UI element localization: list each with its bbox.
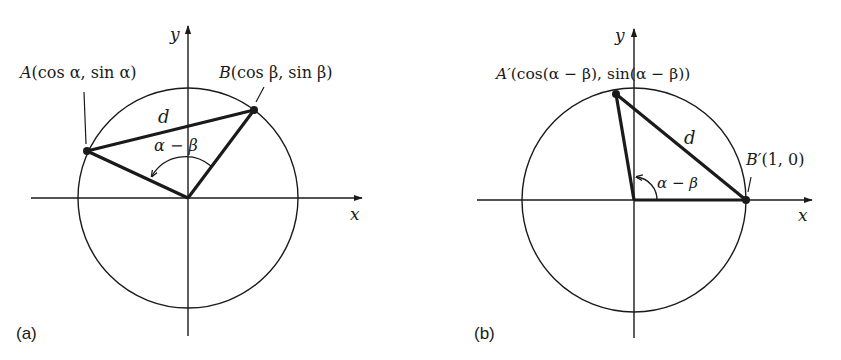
panel-a: y x A(cos α, sin α) B(cos β, sin β) d α … [16, 24, 362, 343]
point-B-prime-label: B′(1, 0) [745, 150, 804, 169]
segment-d-label: d [158, 106, 170, 127]
point-A-prime-dot [612, 90, 620, 98]
point-B-prime-dot [742, 196, 750, 204]
point-A-label: A(cos α, sin α) [18, 63, 136, 82]
angle-label: α − β [657, 174, 698, 192]
y-axis-label: y [169, 24, 180, 44]
panel-b: y x A′(cos(α − β), sin(α − β)) B′(1, 0) … [474, 25, 812, 343]
angle-arc [152, 157, 211, 176]
leader-line-B-prime [748, 177, 751, 192]
radius-to-A-prime [616, 94, 634, 200]
point-A-coords: (cos α, sin α) [32, 63, 137, 82]
point-A-dot [83, 147, 91, 155]
leader-line-B [256, 87, 264, 102]
x-axis-label: x [798, 205, 808, 225]
angle-label: α − β [154, 136, 198, 155]
point-B-label: B(cos β, sin β) [218, 63, 333, 82]
panel-caption-a: (a) [16, 324, 37, 343]
panel-caption-b: (b) [474, 324, 495, 343]
point-B-prime-coords: (1, 0) [761, 150, 804, 169]
angle-arc [637, 177, 657, 200]
point-A-prime-coords: (cos(α − β), sin(α − β)) [511, 65, 691, 83]
point-B-name: B [218, 63, 231, 82]
leader-line-A [84, 92, 86, 144]
y-axis-label: y [614, 25, 625, 45]
point-B-coords: (cos β, sin β) [231, 63, 333, 82]
segment-d-label: d [684, 127, 696, 148]
point-A-prime-name: A′ [494, 65, 511, 83]
point-B-prime-name: B′ [745, 150, 762, 169]
x-axis-label: x [350, 204, 360, 224]
point-A-name: A [18, 63, 32, 82]
figure-canvas: y x A(cos α, sin α) B(cos β, sin β) d α … [0, 0, 841, 360]
point-B-dot [250, 106, 258, 114]
radius-to-A [87, 151, 188, 198]
point-A-prime-label: A′(cos(α − β), sin(α − β)) [494, 65, 690, 83]
